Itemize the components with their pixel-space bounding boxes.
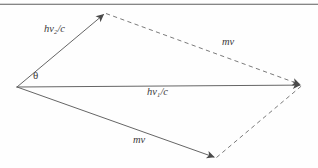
label-incident-photon-momentum: hν1/c	[147, 87, 168, 98]
label-incident-base: hν	[147, 86, 157, 97]
closing-dashed-side	[217, 86, 303, 158]
label-scattered-base: hν	[44, 23, 54, 34]
label-scattering-angle-theta: θ	[33, 70, 38, 81]
label-scattered-denominator: /c	[57, 23, 65, 34]
label-incident-denominator: /c	[160, 86, 168, 97]
label-momentum-lower: mv	[133, 135, 145, 146]
vector-electron-momentum-upper-dashed	[106, 14, 300, 85]
label-scattered-photon-momentum: hν2/c	[44, 24, 65, 35]
label-momentum-upper: mv	[222, 37, 234, 48]
vector-electron-momentum-lower	[17, 87, 214, 157]
compton-momentum-diagram: hν2/c hν1/c mv mv θ	[0, 0, 318, 168]
